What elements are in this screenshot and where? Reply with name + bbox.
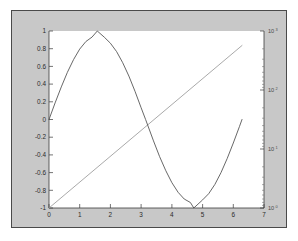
right-tick-label: 10 0 — [268, 204, 278, 212]
x-tick-label: 1 — [78, 211, 82, 218]
left-tick-label: -0.8 — [35, 187, 46, 194]
right-tick-label: 10 3 — [268, 27, 278, 35]
left-tick-label: 0 — [42, 116, 46, 123]
right-tick-base: 10 — [268, 28, 274, 34]
left-tick-label: -0.4 — [35, 151, 46, 158]
figure-window: 1 0.8 0.6 0.4 0.2 0 -0.2 -0.4 -0.6 -0.8 … — [11, 10, 287, 228]
x-tick-label: 5 — [201, 211, 205, 218]
left-tick-label: 0.8 — [37, 45, 46, 52]
x-tick-label: 4 — [170, 211, 174, 218]
right-tick-label: 10 1 — [268, 145, 278, 153]
right-tick-base: 10 — [268, 205, 274, 211]
right-tick-exponent: 3 — [275, 27, 277, 32]
right-tick-exponent: 1 — [275, 145, 277, 150]
right-tick-base: 10 — [268, 146, 274, 152]
x-tick-label: 0 — [47, 211, 51, 218]
right-tick-exponent: 0 — [275, 204, 278, 209]
right-tick-base: 10 — [268, 87, 274, 93]
x-tick-label: 2 — [109, 211, 113, 218]
plot-area-background — [49, 31, 264, 208]
left-tick-label: 1 — [42, 27, 46, 34]
right-tick-label: 10 2 — [268, 86, 278, 94]
right-axis-tick-labels: 10 3 10 2 10 1 10 0 — [268, 27, 278, 212]
right-tick-exponent: 2 — [275, 86, 277, 91]
left-tick-label: 0.2 — [37, 98, 46, 105]
x-tick-label: 7 — [262, 211, 266, 218]
x-axis-tick-labels: 0 1 2 3 4 5 6 7 — [47, 211, 266, 218]
x-tick-label: 6 — [232, 211, 236, 218]
left-tick-label: 0.6 — [37, 63, 46, 70]
x-tick-label: 3 — [139, 211, 143, 218]
left-axis-tick-labels: 1 0.8 0.6 0.4 0.2 0 -0.2 -0.4 -0.6 -0.8 … — [35, 27, 46, 211]
left-tick-label: -0.6 — [35, 169, 46, 176]
left-tick-label: -0.2 — [35, 133, 46, 140]
left-tick-label: 0.4 — [37, 80, 46, 87]
left-tick-label: -1 — [40, 204, 46, 211]
plot-canvas: 1 0.8 0.6 0.4 0.2 0 -0.2 -0.4 -0.6 -0.8 … — [12, 11, 288, 229]
